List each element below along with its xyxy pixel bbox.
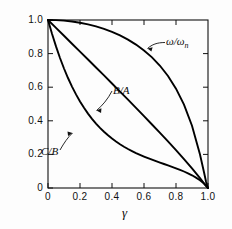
c-over-b-annotation: C/B (41, 145, 58, 157)
chart-figure: 1.0 0.8 0.6 0.4 0.2 0 0 0.2 0.4 0.6 0.8 … (0, 0, 232, 229)
leader-arrow-ba (97, 108, 102, 113)
y-tick-label-5: 0.2 (8, 148, 43, 159)
omega-ratio-main: ω/ω (166, 35, 185, 47)
x-tick-label-2: 0.2 (66, 191, 94, 202)
right-axis-ticks (203, 54, 208, 155)
omega-ratio-annotation: ω/ωn (166, 35, 189, 50)
x-tick-label-5: 0.8 (162, 191, 190, 202)
x-tick-label-1: 0 (34, 191, 62, 202)
x-tick-label-3: 0.4 (98, 191, 126, 202)
leader-line-omega (148, 43, 166, 49)
x-axis-title: γ (122, 205, 127, 221)
y-tick-label-3: 0.6 (8, 81, 43, 92)
y-tick-label-2: 0.8 (8, 48, 43, 59)
y-tick-label-4: 0.4 (8, 115, 43, 126)
y-tick-label-1: 1.0 (8, 14, 43, 25)
b-over-a-annotation: B/A (113, 84, 130, 96)
y-axis-ticks (48, 20, 53, 188)
leader-line-cb (60, 133, 73, 150)
omega-ratio-subscript: n (185, 41, 189, 50)
top-axis-ticks (80, 20, 176, 25)
x-axis-ticks (48, 183, 208, 188)
x-tick-label-4: 0.6 (130, 191, 158, 202)
leader-line-ba (97, 91, 113, 111)
x-tick-label-6: 1.0 (194, 191, 222, 202)
